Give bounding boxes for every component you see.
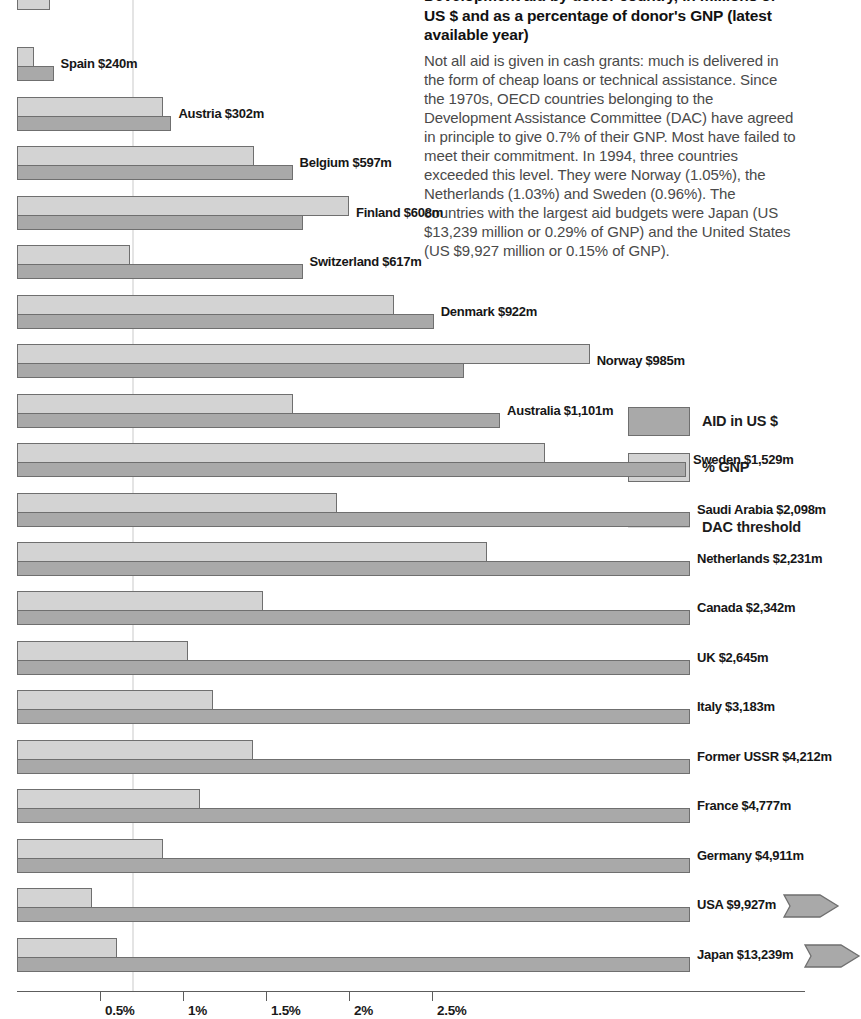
table-row: Denmark $922m [0,295,805,329]
bar-label: UK $2,645m [697,650,768,665]
gnp-bar [17,245,130,265]
x-axis: 0.5%1%1.5%2%2.5% [0,991,805,1019]
legend-swatch-aid [628,407,690,436]
table-row: Italy $3,183m [0,690,805,724]
gnp-bar [17,740,253,760]
text-panel: Development aid by donor country, in mil… [424,0,796,261]
description-paragraph: Not all aid is given in cash grants: muc… [424,52,796,261]
page-title: Development aid by donor country, in mil… [424,0,796,45]
bar-label: Finland $608m [356,205,443,220]
aid-bar [17,660,690,675]
gnp-bar [17,47,34,67]
aid-bar [17,858,690,873]
bar-label: Netherlands $2,231m [697,551,822,566]
gnp-bar [17,542,487,562]
aid-bar [17,413,500,428]
table-row: UK $2,645m [0,641,805,675]
bar-label: Austria $302m [178,106,264,121]
bar-label: Australia $1,101m [507,403,613,418]
bar-label: France $4,777m [697,798,791,813]
gnp-bar [17,344,590,364]
gnp-bar [17,394,293,414]
table-row: France $4,777m [0,789,805,823]
bar-label: Norway $985m [597,353,685,368]
bar-label: Japan $13,239m [697,947,793,962]
axis-tick-label: 2.5% [437,1003,467,1018]
gnp-bar [17,938,117,958]
axis-tick-label: 0.5% [105,1003,135,1018]
axis-tick [266,991,267,1001]
bar-label: Saudi Arabia $2,098m [697,502,826,517]
gnp-bar [17,591,263,611]
bar-label: Belgium $597m [300,155,392,170]
axis-tick-label: 1.5% [271,1003,301,1018]
axis-tick-label: 2% [354,1003,373,1018]
aid-bar [17,610,690,625]
axis-tick [349,991,350,1001]
aid-bar [17,116,171,131]
legend-label: AID in US $ [702,413,778,429]
table-row: Germany $4,911m [0,839,805,873]
aid-bar [17,66,54,81]
table-row: Canada $2,342m [0,591,805,625]
table-row: Japan $13,239m [0,938,805,972]
axis-tick-label: 1% [188,1003,207,1018]
gnp-bar [17,97,163,117]
gnp-bar [17,295,394,315]
aid-bar [17,957,690,972]
offscale-arrow-icon [803,941,861,975]
gnp-bar [17,690,213,710]
axis-baseline [17,991,805,992]
gnp-bar [17,196,349,216]
aid-bar [17,363,464,378]
aid-bar [17,709,690,724]
bar-label: Spain $240m [61,56,138,71]
gnp-bar [17,493,337,513]
table-row: USA $9,927m [0,888,805,922]
aid-bar [17,462,686,477]
bar-label: Germany $4,911m [697,848,804,863]
legend-item[interactable]: AID in US $ [628,398,805,444]
bar-label: Sweden $1,529m [693,452,794,467]
table-row: Norway $985m [0,344,805,378]
aid-bar [17,215,303,230]
aid-bar [17,808,690,823]
bar-label: Former USSR $4,212m [697,749,832,764]
table-row: Former USSR $4,212m [0,740,805,774]
gnp-bar [17,641,188,661]
aid-bar [17,907,690,922]
offscale-arrow-icon [782,891,840,925]
gnp-bar [17,0,50,10]
bar-label: Denmark $922m [441,304,537,319]
aid-bar [17,264,303,279]
gnp-bar [17,888,92,908]
aid-bar [17,561,690,576]
axis-tick [183,991,184,1001]
aid-bar [17,759,690,774]
legend-label: DAC threshold [702,519,801,535]
aid-bar [17,165,293,180]
axis-tick [100,991,101,1001]
gnp-bar [17,443,545,463]
gnp-bar [17,146,254,166]
gnp-bar [17,789,200,809]
aid-bar [17,512,690,527]
bar-label: Canada $2,342m [697,600,795,615]
axis-tick [432,991,433,1001]
gnp-bar [17,839,163,859]
bar-label: Switzerland $617m [310,254,422,269]
bar-label: Italy $3,183m [697,699,775,714]
aid-bar [17,314,434,329]
bar-label: USA $9,927m [697,897,776,912]
